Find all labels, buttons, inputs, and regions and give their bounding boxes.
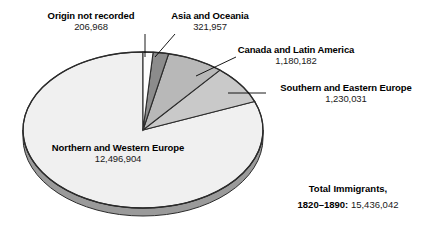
pie-label-origin-not-recorded-value: 206,968 xyxy=(26,22,156,33)
pie-slices-group xyxy=(23,52,263,208)
pie-label-northern-and-western-europe-value: 12,496,904 xyxy=(34,154,202,165)
pie-label-southern-and-eastern-europe-value: 1,230,031 xyxy=(268,94,424,105)
total-immigrants-detail: 1820–1890: 15,436,042 xyxy=(272,194,424,213)
pie-label-canada-and-latin-america-value: 1,180,182 xyxy=(222,56,370,67)
total-immigrants-years: 1820–1890: xyxy=(298,199,349,210)
pie-label-asia-and-oceania-value: 321,957 xyxy=(158,22,262,33)
total-immigrants-title: Total Immigrants, xyxy=(272,183,424,194)
pie-label-northern-and-western-europe: Northern and Western Europe 12,496,904 xyxy=(34,143,202,164)
pie-label-southern-and-eastern-europe: Southern and Eastern Europe 1,230,031 xyxy=(268,83,424,104)
pie-label-asia-and-oceania: Asia and Oceania 321,957 xyxy=(158,11,262,32)
pie-chart-figure: Origin not recorded 206,968 Asia and Oce… xyxy=(0,0,428,234)
pie-label-origin-not-recorded: Origin not recorded 206,968 xyxy=(26,11,156,32)
total-immigrants-value: 15,436,042 xyxy=(351,199,399,210)
pie-label-canada-and-latin-america: Canada and Latin America 1,180,182 xyxy=(222,45,370,66)
total-immigrants-block: Total Immigrants, 1820–1890: 15,436,042 xyxy=(272,183,424,213)
